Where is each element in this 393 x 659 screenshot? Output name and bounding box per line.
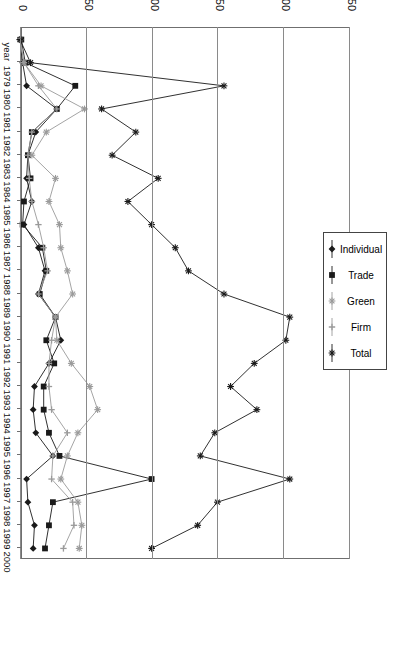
- star-marker: [132, 129, 139, 136]
- star-marker: [197, 453, 204, 460]
- star-marker: [27, 59, 34, 66]
- category-axis-tick-label: 1995: [2, 436, 13, 457]
- gridline: [283, 27, 284, 559]
- category-axis-tick: [17, 408, 21, 409]
- category-axis-tick: [17, 547, 21, 548]
- asterisk-marker: [57, 476, 64, 483]
- value-axis-tick-label: 100: [149, 0, 161, 11]
- diamond-marker: [24, 499, 31, 506]
- star-marker: [125, 198, 132, 205]
- category-axis-tick-label: 1988: [2, 274, 13, 295]
- plus-marker: [48, 406, 54, 412]
- asterisk-marker: [64, 267, 71, 274]
- chart-figure: 050100150200250 year19791980198119821983…: [0, 0, 393, 659]
- category-axis-tick-label: 1989: [2, 297, 13, 318]
- category-axis-tick: [17, 61, 21, 62]
- category-axis-tick: [17, 501, 21, 502]
- plus-marker: [71, 522, 77, 528]
- square-marker: [21, 199, 27, 205]
- star-marker: [185, 267, 192, 274]
- rotated-figure-wrapper: 050100150200250 year19791980198119821983…: [0, 0, 393, 659]
- diamond-marker: [30, 545, 37, 552]
- asterisk-marker: [46, 198, 53, 205]
- star-marker: [227, 383, 234, 390]
- square-marker: [43, 337, 49, 343]
- star-marker: [109, 152, 116, 159]
- diamond-marker: [31, 522, 38, 529]
- legend-item-marker: [327, 316, 338, 338]
- star-marker: [286, 476, 293, 483]
- asterisk-marker: [43, 129, 50, 136]
- star-marker: [221, 82, 228, 89]
- star-marker: [251, 360, 258, 367]
- asterisk-marker: [56, 221, 63, 228]
- category-axis-tick-label: 1986: [2, 228, 13, 249]
- value-axis-tick-label: 50: [83, 0, 95, 11]
- plot-area: [21, 27, 350, 559]
- category-axis-tick-label: 2000: [2, 551, 13, 572]
- category-axis-tick: [17, 223, 21, 224]
- diamond-marker: [32, 429, 39, 436]
- star-marker: [221, 291, 228, 298]
- category-axis-tick: [17, 107, 21, 108]
- star-marker: [155, 175, 162, 182]
- legend-item-total: Total: [327, 341, 384, 365]
- category-axis-tick-label: 1984: [2, 181, 13, 202]
- category-axis-tick-label: 1993: [2, 390, 13, 411]
- square-marker: [46, 430, 52, 436]
- plus-marker: [60, 545, 66, 551]
- square-marker: [41, 407, 47, 413]
- series-layer: [20, 28, 349, 560]
- square-marker: [41, 384, 47, 390]
- category-axis-tick-label: year: [2, 43, 13, 61]
- series-green: [17, 36, 101, 552]
- square-marker: [72, 83, 78, 89]
- category-axis-tick: [17, 454, 21, 455]
- category-axis-tick-label: 1999: [2, 528, 13, 549]
- value-axis-tick-label: 0: [17, 5, 29, 11]
- category-axis-tick-label: 1981: [2, 112, 13, 133]
- plus-marker: [64, 430, 70, 436]
- category-axis-tick-label: 1997: [2, 482, 13, 503]
- asterisk-marker: [52, 175, 59, 182]
- category-axis-tick: [17, 131, 21, 132]
- square-marker: [329, 272, 335, 278]
- asterisk-marker: [329, 298, 336, 305]
- star-marker: [286, 314, 293, 321]
- gridline: [86, 27, 87, 559]
- legend-item-label: Total: [356, 330, 366, 376]
- asterisk-marker: [64, 453, 71, 460]
- category-axis-tick-label: 1983: [2, 158, 13, 179]
- diamond-marker: [31, 383, 38, 390]
- asterisk-marker: [86, 383, 93, 390]
- plus-marker: [46, 383, 52, 389]
- category-axis-tick-label: 1985: [2, 204, 13, 225]
- category-axis-tick-label: 1987: [2, 251, 13, 272]
- category-axis-tick-label: 1990: [2, 320, 13, 341]
- asterisk-marker: [78, 522, 85, 529]
- star-marker: [329, 350, 336, 357]
- category-axis-tick: [17, 293, 21, 294]
- category-axis-tick: [17, 339, 21, 340]
- series-firm: [17, 36, 77, 551]
- plus-marker: [29, 198, 35, 204]
- square-marker: [46, 522, 52, 528]
- category-axis-tick: [17, 38, 21, 39]
- category-axis-tick: [17, 154, 21, 155]
- category-axis-tick: [17, 269, 21, 270]
- value-axis-tick-label: 150: [214, 0, 226, 11]
- diamond-marker: [329, 246, 336, 253]
- square-marker: [50, 499, 56, 505]
- asterisk-marker: [76, 545, 83, 552]
- gridline: [217, 27, 218, 559]
- legend-item-marker: [327, 264, 338, 286]
- category-axis-tick: [17, 431, 21, 432]
- category-axis-tick: [17, 316, 21, 317]
- star-marker: [172, 244, 179, 251]
- legend-item-marker: [327, 342, 338, 364]
- series-line: [20, 40, 290, 549]
- square-marker: [42, 546, 48, 552]
- asterisk-marker: [81, 106, 88, 113]
- category-axis-tick: [17, 478, 21, 479]
- category-axis-tick: [17, 200, 21, 201]
